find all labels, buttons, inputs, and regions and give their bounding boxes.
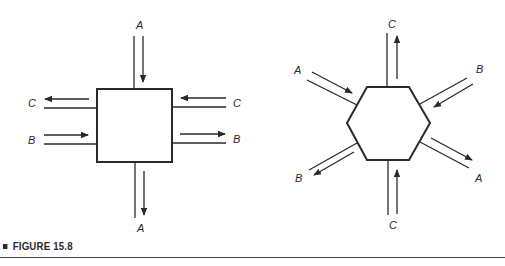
square-box xyxy=(97,89,172,162)
square-right-lower-label: B xyxy=(233,133,240,145)
hex-upper-left-label: A xyxy=(293,64,301,76)
caption-rule xyxy=(0,257,505,258)
hex-upper-left-line xyxy=(307,80,357,105)
square-diagram: A A C B C B xyxy=(28,19,241,234)
figure-canvas: A A C B C B C C A xyxy=(0,0,505,266)
hex-lower-left-label: B xyxy=(295,172,302,184)
hex-bottom-label: C xyxy=(389,219,397,231)
figure-caption-text: FIGURE 15.8 xyxy=(13,240,73,252)
hex-lower-left-line xyxy=(309,143,357,170)
hex-upper-left-arrow-icon xyxy=(312,72,352,93)
hex-top-label: C xyxy=(388,18,396,30)
caption-bullet-icon xyxy=(3,244,7,249)
square-right-upper-label: C xyxy=(233,97,241,109)
square-left-lower-label: B xyxy=(28,134,35,146)
hex-upper-right-label: B xyxy=(476,63,483,75)
figure-caption: FIGURE 15.8 xyxy=(3,240,73,252)
hex-upper-right-arrow-icon xyxy=(434,84,473,107)
hex-lower-right-arrow-icon xyxy=(431,138,472,160)
hex-lower-right-label: A xyxy=(474,172,482,184)
hexagon-box xyxy=(347,87,430,160)
hexagon-diagram: C C A B B A xyxy=(293,18,483,231)
square-left-upper-label: C xyxy=(28,97,36,109)
square-top-label: A xyxy=(135,19,143,31)
square-bottom-label: A xyxy=(136,222,144,234)
